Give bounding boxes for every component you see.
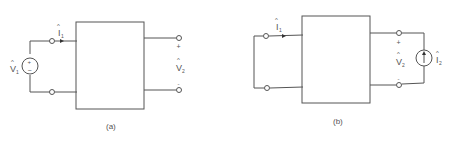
output-top-wire-b (402, 33, 424, 50)
v2-plus-b: + (397, 39, 401, 46)
i1-subscript-a: 1 (61, 33, 64, 39)
input-top-lead-b (269, 35, 303, 36)
input-top-wire-a (30, 41, 52, 54)
v1-subscript: 1 (16, 69, 19, 75)
input-terminal-top-b (264, 34, 269, 39)
input-terminal-bottom-b (265, 86, 270, 91)
output-terminal-bottom-a (177, 88, 182, 93)
v2-subscript-b: 2 (402, 62, 405, 68)
output-terminal-top-a (177, 36, 182, 41)
current-arrow-icon-b (282, 34, 286, 38)
output-bottom-wire-b (402, 66, 424, 84)
v2-minus-b: - (398, 76, 400, 82)
input-short-wire-b (254, 36, 264, 88)
figure-b: ^ I 1 ^ I 2 + ^ V 2 - (b) (254, 16, 442, 126)
input-bottom-lead-b (270, 87, 303, 88)
input-terminal-top-a (50, 39, 55, 44)
i2-subscript-b: 2 (439, 60, 442, 66)
caption-a: (a) (106, 122, 116, 131)
source-minus-sign: − (28, 67, 32, 74)
v2-plus-a: + (177, 43, 181, 50)
two-port-network-box-a (76, 22, 144, 109)
v2-subscript-a: 2 (182, 68, 185, 74)
current-source-arrowhead-icon (422, 51, 426, 55)
two-port-network-box-b (302, 16, 370, 103)
i1-subscript-b: 1 (279, 27, 282, 33)
figure-a: + − ^ V 1 ^ I 1 + ^ V 2 - (a) (10, 22, 185, 131)
v2-minus-a: - (178, 81, 180, 87)
input-bottom-wire-a (30, 75, 50, 92)
output-terminal-bottom-b (397, 83, 402, 88)
input-terminal-bottom-a (50, 90, 55, 95)
output-terminal-top-b (397, 31, 402, 36)
source-plus-sign: + (28, 59, 32, 65)
caption-b: (b) (333, 117, 343, 126)
current-arrow-icon-a (60, 39, 64, 43)
two-port-diagrams: + − ^ V 1 ^ I 1 + ^ V 2 - (a) ^ (0, 0, 452, 143)
